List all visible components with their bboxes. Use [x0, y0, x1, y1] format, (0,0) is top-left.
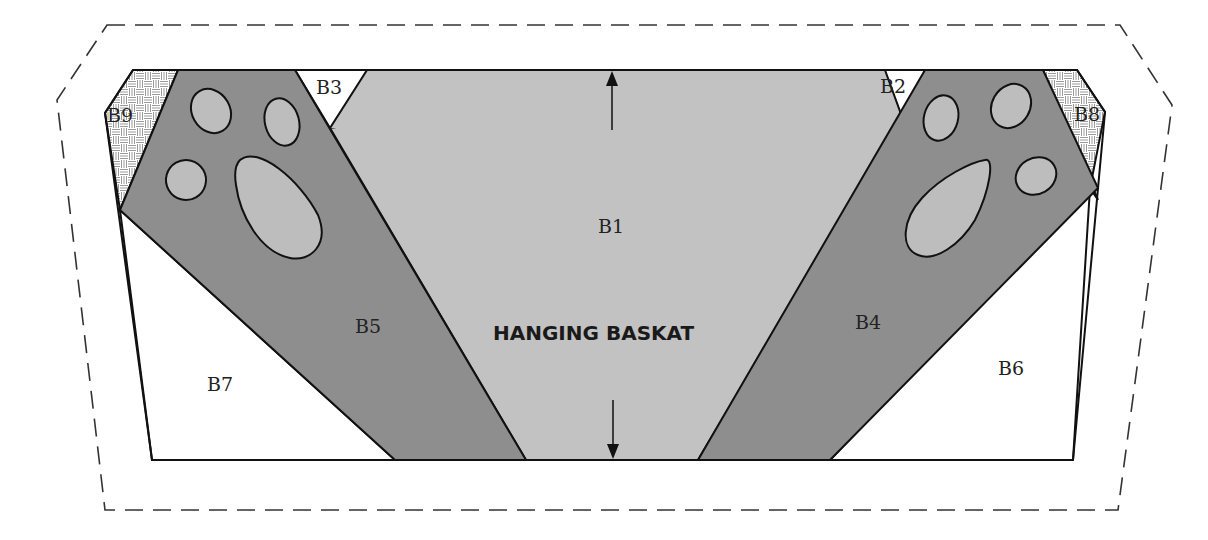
label-b5: B5 [355, 315, 381, 337]
diagram-title: HANGING BASKAT [493, 321, 694, 345]
label-b7: B7 [207, 373, 233, 395]
label-b1: B1 [598, 215, 624, 237]
label-b2: B2 [880, 75, 906, 97]
label-b8: B8 [1074, 103, 1100, 125]
label-b6: B6 [998, 357, 1024, 379]
label-b3: B3 [316, 76, 342, 98]
label-b4: B4 [855, 311, 881, 333]
label-b9: B9 [107, 104, 133, 126]
quilt-block-diagram: B1 B2 B3 B4 B5 B6 B7 B8 B9 HANGING BASKA… [0, 0, 1208, 540]
